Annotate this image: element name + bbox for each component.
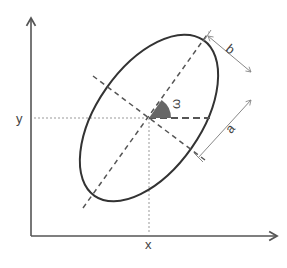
x-axis-label: x <box>145 237 152 252</box>
axes <box>31 18 277 236</box>
y-axis-label: y <box>16 111 23 126</box>
major-axis-line <box>83 32 209 208</box>
center-guides <box>34 118 149 234</box>
ellipse-diagram: y x ω b a <box>0 0 287 268</box>
omega-label: ω <box>168 99 183 109</box>
